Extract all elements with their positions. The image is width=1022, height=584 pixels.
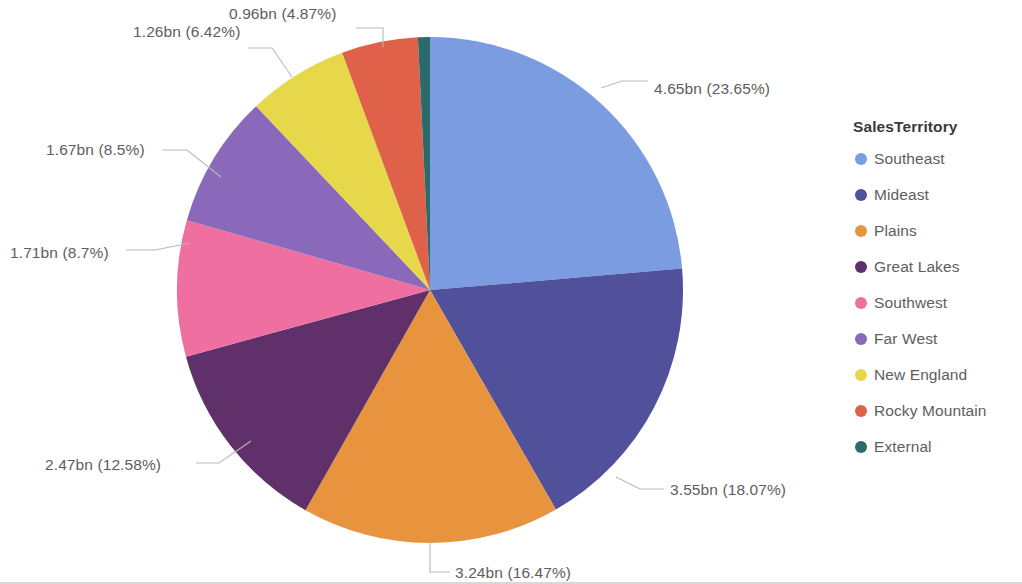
legend-swatch-icon: [855, 261, 867, 273]
legend-item-label: Plains: [874, 222, 917, 239]
callout-leader-line: [601, 81, 648, 88]
legend-item-label: Great Lakes: [874, 258, 960, 275]
pie-chart-figure: 4.65bn (23.65%)3.55bn (18.07%)3.24bn (16…: [0, 0, 1022, 584]
slice-value-label: 1.71bn (8.7%): [10, 244, 109, 261]
legend-item-southwest[interactable]: Southwest: [855, 294, 948, 311]
slice-value-label: 3.55bn (18.07%): [670, 481, 786, 498]
legend: SalesTerritorySoutheastMideastPlainsGrea…: [853, 118, 987, 455]
pie-slices-group: [177, 37, 683, 543]
legend-item-label: Mideast: [874, 186, 930, 203]
legend-item-label: Far West: [874, 330, 938, 347]
legend-item-label: Southeast: [874, 150, 945, 167]
pie-slice-southeast[interactable]: [430, 37, 682, 290]
slice-value-label: 4.65bn (23.65%): [654, 80, 770, 97]
slice-value-label: 0.96bn (4.87%): [229, 5, 336, 22]
legend-item-great-lakes[interactable]: Great Lakes: [855, 258, 960, 275]
legend-item-rocky-mountain[interactable]: Rocky Mountain: [855, 402, 987, 419]
legend-swatch-icon: [855, 189, 867, 201]
legend-item-plains[interactable]: Plains: [855, 222, 917, 239]
slice-value-label: 2.47bn (12.58%): [45, 456, 161, 473]
legend-swatch-icon: [855, 441, 867, 453]
legend-swatch-icon: [855, 153, 867, 165]
legend-item-southeast[interactable]: Southeast: [855, 150, 945, 167]
callout-leader-line: [248, 48, 292, 77]
legend-item-new-england[interactable]: New England: [855, 366, 967, 383]
legend-swatch-icon: [855, 333, 867, 345]
slice-value-label: 3.24bn (16.47%): [455, 564, 571, 581]
legend-item-label: External: [874, 438, 932, 455]
legend-item-far-west[interactable]: Far West: [855, 330, 938, 347]
legend-swatch-icon: [855, 369, 867, 381]
legend-item-label: New England: [874, 366, 967, 383]
slice-value-label: 1.26bn (6.42%): [133, 23, 240, 40]
callout-leader-line: [616, 477, 664, 489]
callout-leader-line: [430, 542, 450, 572]
legend-swatch-icon: [855, 405, 867, 417]
legend-swatch-icon: [855, 225, 867, 237]
legend-title: SalesTerritory: [853, 118, 958, 135]
slice-value-label: 1.67bn (8.5%): [46, 141, 145, 158]
legend-swatch-icon: [855, 297, 867, 309]
legend-item-mideast[interactable]: Mideast: [855, 186, 930, 203]
pie-chart-canvas: 4.65bn (23.65%)3.55bn (18.07%)3.24bn (16…: [0, 0, 1022, 584]
legend-item-label: Southwest: [874, 294, 948, 311]
legend-item-external[interactable]: External: [855, 438, 932, 455]
legend-item-label: Rocky Mountain: [874, 402, 987, 419]
